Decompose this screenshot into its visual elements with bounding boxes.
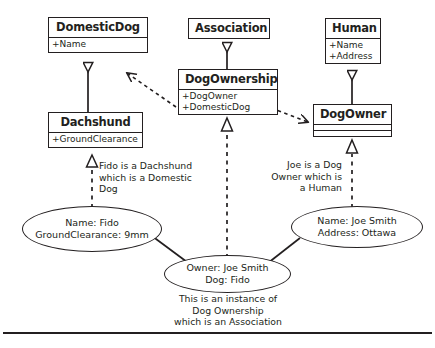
- dependency-dogownership-to-domesticdog: [127, 73, 176, 107]
- class-name-domesticdog: DomesticDog: [49, 18, 147, 37]
- annotation-line: Joe is a Dog: [271, 159, 342, 171]
- annotation-line: Owner which is: [271, 171, 342, 183]
- instance-line: Name: Joe Smith: [317, 215, 396, 227]
- class-name-human: Human: [326, 19, 380, 38]
- annotation-line: which is a Domestic: [99, 172, 192, 184]
- instance-ellipse-fido[interactable]: Name: Fido GroundClearance: 9mm: [22, 206, 162, 252]
- instance-ellipse-dogownership[interactable]: Owner: Joe Smith Dog: Fido: [164, 255, 291, 293]
- uml-diagram-canvas: DomesticDog +Name Association Human +Nam…: [0, 0, 435, 348]
- annotation-ownership: This is an instance of Dog Ownership whi…: [142, 293, 314, 328]
- annotation-line: which is an Association: [142, 316, 314, 328]
- class-box-dogownership[interactable]: DogOwnership +DogOwner +DomesticDog: [178, 69, 278, 115]
- instance-line: Address: Ottawa: [318, 227, 396, 239]
- attribute-item: +Name: [52, 39, 144, 50]
- attribute-item: +Address: [329, 51, 377, 62]
- attribute-item: +DogOwner: [182, 91, 274, 102]
- class-box-association[interactable]: Association: [188, 18, 270, 39]
- link-fido-to-ownership: [152, 236, 187, 262]
- attribute-item: +Name: [329, 40, 377, 51]
- class-box-dachshund[interactable]: Dachshund +GroundClearance: [48, 112, 143, 148]
- class-box-dogowner[interactable]: DogOwner: [313, 104, 392, 137]
- class-box-domesticdog[interactable]: DomesticDog +Name: [48, 17, 148, 53]
- class-attributes-dogownership: +DogOwner +DomesticDog: [179, 89, 277, 114]
- class-attributes-dachshund: +GroundClearance: [49, 132, 142, 147]
- instance-line: GroundClearance: 9mm: [35, 229, 148, 241]
- class-operations-dogowner: [314, 130, 391, 136]
- annotation-fido: Fido is a Dachshund which is a Domestic …: [99, 160, 192, 195]
- instanceof-joesmith-to-dogowner: [347, 140, 358, 208]
- instance-ellipse-joesmith[interactable]: Name: Joe Smith Address: Ottawa: [291, 206, 423, 248]
- class-name-dachshund: Dachshund: [49, 113, 142, 132]
- class-name-dogownership: DogOwnership: [179, 70, 277, 89]
- attribute-item: +DomesticDog: [182, 102, 274, 113]
- instance-line: Dog: Fido: [205, 274, 250, 286]
- annotation-joe: Joe is a Dog Owner which is a Human: [271, 159, 342, 194]
- annotation-line: Dog: [99, 183, 192, 195]
- link-joesmith-to-ownership: [268, 238, 300, 263]
- instance-line: Owner: Joe Smith: [186, 262, 268, 274]
- attribute-item: +GroundClearance: [52, 134, 139, 145]
- annotation-line: This is an instance of: [142, 293, 314, 305]
- instance-line: Name: Fido: [65, 217, 119, 229]
- annotation-line: a Human: [271, 182, 342, 194]
- class-name-dogowner: DogOwner: [314, 105, 391, 124]
- instanceof-ownership-to-dogownership: [222, 118, 233, 258]
- instanceof-fido-to-dachshund: [87, 155, 98, 208]
- bottom-divider: [3, 332, 432, 334]
- class-name-association: Association: [189, 19, 269, 38]
- annotation-line: Dog Ownership: [142, 305, 314, 317]
- class-attributes-domesticdog: +Name: [49, 37, 147, 52]
- annotation-line: Fido is a Dachshund: [99, 160, 192, 172]
- class-box-human[interactable]: Human +Name +Address: [325, 18, 381, 64]
- class-attributes-human: +Name +Address: [326, 38, 380, 63]
